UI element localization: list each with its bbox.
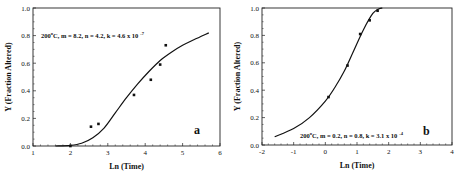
x-tick-label: 2 — [387, 148, 391, 156]
x-tick-label: -2 — [259, 148, 265, 156]
x-tick-label: 0 — [324, 148, 328, 156]
fit-curve — [55, 33, 208, 146]
data-point — [368, 19, 371, 22]
y-tick-label: 0.8 — [21, 32, 30, 40]
y-tick-label: 1.0 — [21, 5, 30, 13]
chart-panel-a: 0.00.20.40.60.81.0123456Ln (Time)Y (Frac… — [0, 0, 228, 174]
y-tick-label: 0.0 — [21, 143, 30, 151]
x-tick-label: -1 — [291, 148, 297, 156]
x-axis-label: Ln (Time) — [109, 162, 144, 171]
y-tick-label: 0.4 — [250, 87, 259, 95]
x-tick-label: 5 — [181, 149, 185, 157]
chart-panel-b: 0.00.20.40.60.81.0-2-101234Ln (Time)Y (F… — [228, 0, 455, 174]
panel-label: a — [194, 123, 200, 137]
data-point — [150, 78, 153, 81]
fit-curve — [275, 8, 383, 137]
x-axis-label: Ln (Time) — [340, 161, 375, 170]
x-tick-label: 2 — [69, 149, 73, 157]
chart-a-plot: 0.00.20.40.60.81.0123456Ln (Time)Y (Frac… — [0, 0, 228, 174]
x-tick-label: 4 — [450, 148, 454, 156]
data-point — [97, 123, 100, 126]
data-point — [159, 63, 162, 66]
panel-label: b — [423, 124, 430, 138]
data-point — [133, 94, 136, 97]
x-tick-label: 3 — [106, 149, 110, 157]
y-axis-label: Y (Fraction Altered) — [233, 42, 242, 112]
x-tick-label: 1 — [355, 148, 359, 156]
data-point — [376, 9, 379, 12]
data-point — [359, 33, 362, 36]
fit-parameters-annotation: 200oC, m = 8.2, n = 4.2, k = 4.6 x 10-7 — [41, 31, 145, 40]
x-tick-label: 6 — [218, 149, 222, 157]
y-tick-label: 0.6 — [250, 59, 259, 67]
fit-parameters-annotation: 200oC, m = 0.2, n = 0.8, k = 3.1 x 10-4 — [300, 131, 404, 140]
y-axis-label: Y (Fraction Altered) — [4, 42, 13, 112]
y-tick-label: 0.4 — [21, 87, 30, 95]
data-point — [327, 96, 330, 99]
data-point — [164, 44, 167, 47]
x-tick-label: 4 — [143, 149, 147, 157]
x-tick-label: 3 — [419, 148, 423, 156]
chart-b-plot: 0.00.20.40.60.81.0-2-101234Ln (Time)Y (F… — [228, 0, 455, 174]
y-tick-label: 0.2 — [21, 115, 30, 123]
x-tick-label: 1 — [31, 149, 35, 157]
y-tick-label: 0.2 — [250, 114, 259, 122]
data-point — [90, 125, 93, 128]
y-tick-label: 0.8 — [250, 32, 259, 40]
y-tick-label: 0.6 — [21, 60, 30, 68]
y-tick-label: 1.0 — [250, 5, 259, 13]
data-point — [69, 145, 72, 148]
data-point — [346, 64, 349, 67]
plot-frame — [33, 8, 220, 146]
